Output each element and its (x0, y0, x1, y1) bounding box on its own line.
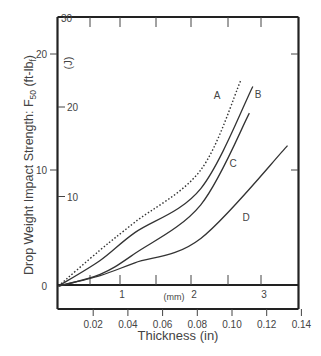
curve-b (59, 86, 253, 286)
j-tick-label: 30 (61, 13, 73, 24)
x-tick-label: 0.04 (118, 319, 138, 330)
axis-ticks (50, 17, 301, 316)
curve-c (59, 113, 250, 286)
x-axis-title: Thickness (in) (138, 328, 219, 343)
data-curves (59, 81, 288, 286)
y-tick-label: 20 (36, 49, 48, 60)
mm-axis-label: (mm) (164, 292, 185, 302)
axis-tick-labels: 0.020.040.060.080.100.120.14123010201020… (36, 13, 312, 331)
j-tick-label: 10 (67, 192, 79, 203)
curve-label-a: A (214, 90, 221, 101)
impact-strength-chart: 0.020.040.060.080.100.120.14123010201020… (0, 0, 321, 356)
curve-label-c: C (229, 158, 236, 169)
curve-a (59, 81, 241, 286)
mm-tick-label: 2 (191, 289, 197, 300)
mm-tick-label: 3 (261, 289, 267, 300)
y-tick-label: 0 (41, 281, 47, 292)
mm-tick-label: 1 (119, 289, 125, 300)
x-tick-label: 0.10 (222, 319, 242, 330)
y-axis-title: Drop Weight Impact Strength: F50 (ft-lbf… (22, 55, 38, 275)
x-tick-label: 0.12 (257, 319, 277, 330)
j-tick-label: 20 (67, 102, 79, 113)
y-tick-label: 10 (36, 165, 48, 176)
x-tick-label: 0.14 (292, 319, 312, 330)
curve-label-b: B (255, 89, 262, 100)
x-tick-label: 0.02 (83, 319, 103, 330)
j-unit-label: (J) (62, 57, 74, 70)
curve-label-d: D (242, 212, 249, 223)
